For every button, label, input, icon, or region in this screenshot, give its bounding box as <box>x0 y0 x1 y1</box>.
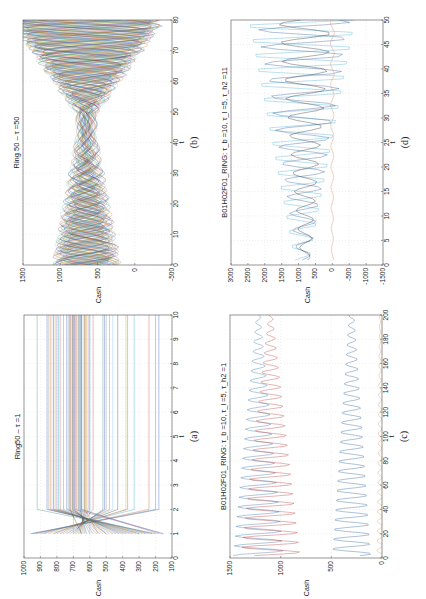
y-axis-label: Cash <box>95 580 102 596</box>
t-tick-label: 30 <box>172 169 179 177</box>
panel-b: 01020304050607080t-500050010001500CashRi… <box>9 16 200 303</box>
t-tick-label: 1 <box>172 532 179 536</box>
cash-tick-label: 300 <box>135 561 142 572</box>
cash-tick-label: 0 <box>328 268 335 272</box>
cash-tick-label: 1000 <box>295 268 302 283</box>
cash-tick-label: 500 <box>327 561 334 572</box>
t-tick-label: 5 <box>383 238 390 242</box>
chart-title: Ring50 – τ =1 <box>13 414 22 460</box>
t-tick-label: 50 <box>383 16 390 24</box>
t-tick-label: 15 <box>383 188 390 196</box>
cash-tick-label: 1000 <box>20 561 27 576</box>
panel-caption: (a) <box>188 431 200 442</box>
series-c <box>233 315 383 556</box>
x-axis-label: t <box>178 435 185 437</box>
cash-tick-label: 900 <box>36 561 43 572</box>
t-tick-label: 0 <box>172 556 179 560</box>
t-tick-label: 10 <box>172 230 179 238</box>
cash-tick-label: -500 <box>345 268 352 281</box>
panel-caption: (d) <box>399 137 411 149</box>
x-axis-label: t <box>389 141 396 143</box>
cash-tick-label: 1500 <box>278 268 285 283</box>
t-tick-label: 180 <box>382 333 389 344</box>
chart-title: Ring 50 – τ =50 <box>12 117 21 169</box>
cash-tick-label: 100 <box>168 561 175 572</box>
x-axis-label: t <box>178 141 185 143</box>
t-tick-label: 0 <box>383 263 390 267</box>
t-tick-label: 80 <box>172 16 179 24</box>
cash-tick-label: 800 <box>53 561 60 572</box>
t-tick-label: 10 <box>172 311 179 319</box>
panel-d: 05101520253035404550t-1500-1000-50005001… <box>220 16 411 303</box>
t-tick-label: 8 <box>172 361 179 365</box>
t-tick-label: 200 <box>382 309 389 320</box>
cash-tick-label: -1000 <box>362 268 369 285</box>
t-tick-label: 3 <box>172 483 179 487</box>
series-b <box>9 20 163 265</box>
t-tick-label: 4 <box>172 459 179 463</box>
y-axis-label: Cash <box>304 287 311 303</box>
t-tick-label: 0 <box>382 556 389 560</box>
cash-tick-label: 500 <box>94 268 101 279</box>
cash-tick-label: 1500 <box>19 268 26 283</box>
t-tick-label: 2 <box>172 507 179 511</box>
t-tick-label: 30 <box>383 114 390 122</box>
cash-tick-label: 0 <box>131 268 138 272</box>
cash-tick-label: 200 <box>152 561 159 572</box>
t-tick-label: 0 <box>172 263 179 267</box>
t-tick-label: 40 <box>382 505 389 513</box>
t-tick-label: 45 <box>383 41 390 49</box>
t-tick-label: 80 <box>382 457 389 465</box>
cash-tick-label: 2000 <box>261 268 268 283</box>
cash-tick-label: 400 <box>119 561 126 572</box>
t-tick-label: 160 <box>382 358 389 369</box>
cash-tick-label: 0 <box>378 561 385 565</box>
cash-tick-label: -1500 <box>379 268 386 285</box>
cash-tick-label: 3000 <box>227 268 234 283</box>
cash-tick-label: 700 <box>69 561 76 572</box>
cash-tick-label: 1000 <box>56 268 63 283</box>
series-a <box>31 315 164 534</box>
t-tick-label: 60 <box>172 77 179 85</box>
t-tick-label: 20 <box>383 163 390 171</box>
t-tick-label: 6 <box>172 410 179 414</box>
cash-tick-label: 2500 <box>244 268 251 283</box>
t-tick-label: 7 <box>172 386 179 390</box>
panel-caption: (c) <box>398 431 410 442</box>
t-tick-label: 120 <box>382 406 389 417</box>
figure: 012345678910t100200300400500600700800900… <box>0 0 426 599</box>
t-tick-label: 20 <box>382 530 389 538</box>
y-axis-label: Cash <box>95 287 102 303</box>
panel-a: 012345678910t100200300400500600700800900… <box>13 311 200 596</box>
cash-tick-label: -500 <box>168 268 175 281</box>
t-tick-label: 20 <box>172 200 179 208</box>
t-tick-label: 10 <box>383 212 390 220</box>
cash-tick-label: 1000 <box>277 561 284 576</box>
chart-title: B01H02F01_RING: τ_b =10, τ_l =5, τ_h2 =1 <box>219 363 228 510</box>
t-tick-label: 40 <box>383 65 390 73</box>
t-tick-label: 60 <box>382 481 389 489</box>
cash-tick-label: 500 <box>102 561 109 572</box>
panel-c: 020406080100120140160180200t050010001500… <box>219 309 410 596</box>
t-tick-label: 9 <box>172 337 179 341</box>
cash-tick-label: 600 <box>86 561 93 572</box>
t-tick-label: 140 <box>382 382 389 393</box>
panel-caption: (b) <box>188 137 200 149</box>
cash-tick-label: 500 <box>311 268 318 279</box>
cash-tick-label: 1500 <box>226 561 233 576</box>
t-tick-label: 70 <box>172 47 179 55</box>
x-axis-label: t <box>388 435 395 437</box>
y-axis-label: Cash <box>303 580 310 596</box>
t-tick-label: 35 <box>383 90 390 98</box>
series-d <box>250 20 354 260</box>
chart-title: B01H02F01_RING: τ_b =10, τ_l =5, τ_h2 =1… <box>220 67 229 218</box>
t-tick-label: 50 <box>172 108 179 116</box>
